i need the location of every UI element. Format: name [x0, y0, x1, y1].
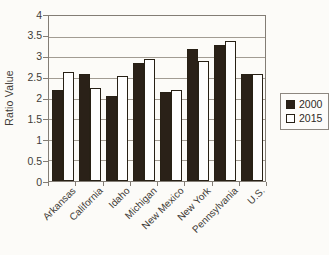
y-tick-label-3.5: 3.5 [10, 30, 42, 41]
bar-u-s--2015 [252, 74, 263, 181]
bar-california-2015 [90, 88, 101, 181]
x-tick-7 [239, 182, 240, 186]
y-tick-2.5 [43, 78, 48, 79]
bar-pennsylvania-2015 [225, 41, 236, 181]
x-tick-8 [266, 182, 267, 186]
y-tick-1 [43, 140, 48, 141]
x-tick-4 [157, 182, 158, 186]
x-tick-6 [212, 182, 213, 186]
plot-area [48, 15, 266, 182]
y-tick-label-0.5: 0.5 [10, 156, 42, 167]
x-tick-3 [130, 182, 131, 186]
bar-michigan-2015 [144, 59, 155, 181]
bar-arkansas-2015 [63, 72, 74, 181]
x-tick-5 [184, 182, 185, 186]
x-tick-1 [75, 182, 76, 186]
legend-item-2000: 2000 [286, 99, 322, 110]
bar-idaho-2015 [117, 76, 128, 181]
bar-arkansas-2000 [52, 90, 63, 181]
legend-label-2000: 2000 [299, 99, 322, 110]
bar-new-york-2015 [198, 61, 209, 181]
bar-idaho-2000 [106, 96, 117, 181]
y-tick-3.5 [43, 36, 48, 37]
bar-new-york-2000 [187, 49, 198, 181]
bar-u-s--2000 [241, 74, 252, 181]
legend-item-2015: 2015 [286, 113, 322, 124]
y-tick-label-3: 3 [10, 51, 42, 62]
legend-swatch-2000-icon [286, 100, 295, 109]
y-tick-label-0: 0 [10, 177, 42, 188]
y-tick-label-1.5: 1.5 [10, 114, 42, 125]
y-tick-2 [43, 99, 48, 100]
y-tick-label-2: 2 [10, 93, 42, 104]
x-tick-0 [48, 182, 49, 186]
y-tick-3 [43, 57, 48, 58]
y-tick-0.5 [43, 161, 48, 162]
legend-label-2015: 2015 [299, 113, 322, 124]
y-tick-4 [43, 15, 48, 16]
legend: 2000 2015 [280, 93, 329, 130]
bar-chart-figure: Ratio Value 2000 2015 00.511.522.533.54A… [0, 0, 329, 255]
bar-new-mexico-2000 [160, 92, 171, 181]
bar-michigan-2000 [133, 63, 144, 181]
y-tick-label-1: 1 [10, 135, 42, 146]
y-tick-label-4: 4 [10, 10, 42, 21]
gridline-3.5 [49, 37, 265, 38]
y-tick-label-2.5: 2.5 [10, 72, 42, 83]
bar-pennsylvania-2000 [214, 45, 225, 181]
y-tick-1.5 [43, 119, 48, 120]
bar-new-mexico-2015 [171, 90, 182, 181]
legend-swatch-2015-icon [286, 114, 295, 123]
bar-california-2000 [79, 74, 90, 181]
x-tick-2 [103, 182, 104, 186]
